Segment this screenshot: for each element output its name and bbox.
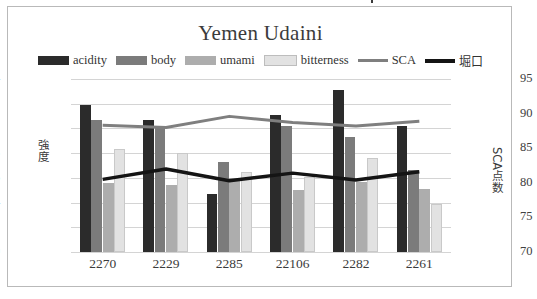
legend-swatch (116, 56, 147, 65)
legend-label: body (151, 53, 176, 68)
legend-swatch (185, 56, 216, 65)
y-tick-right: 75 (520, 209, 537, 224)
legend-line-marker (425, 59, 455, 63)
legend-swatch (264, 55, 297, 66)
y-tick-right: 85 (520, 140, 537, 155)
legend-label: 堀口 (459, 52, 483, 69)
chart-legend: aciditybodyumamibitternessSCA堀口 (8, 52, 513, 69)
line-series-layer (71, 79, 451, 252)
y-tick-right: 80 (520, 175, 537, 190)
stray-mark (371, 0, 373, 3)
x-tick-label: 2270 (80, 256, 126, 272)
legend-label: SCA (392, 53, 416, 68)
line-sca[interactable] (103, 116, 420, 127)
legend-label: bitterness (301, 53, 349, 68)
x-tick-label: 22106 (270, 256, 316, 272)
y-axis-right-label: SCA点数 (489, 147, 505, 194)
legend-item-horiguchi[interactable]: 堀口 (425, 52, 483, 69)
legend-item-body[interactable]: body (116, 53, 176, 68)
y-axis-left-label: 強度 (35, 139, 51, 163)
x-tick-label: 2229 (143, 256, 189, 272)
legend-item-bitterness[interactable]: bitterness (264, 53, 349, 68)
legend-item-acidity[interactable]: acidity (38, 53, 107, 68)
legend-label: umami (220, 53, 255, 68)
x-tick-label: 2285 (207, 256, 253, 272)
chart-title: Yemen Udaini (8, 21, 513, 46)
y-tick-right: 90 (520, 106, 537, 121)
plot-area: 1.41.210.80.60.40.2095908580757022702229… (71, 79, 451, 252)
legend-swatch (38, 56, 69, 65)
y-tick-right: 70 (520, 244, 537, 259)
legend-label: acidity (73, 53, 107, 68)
x-tick-label: 2282 (333, 256, 379, 272)
x-tick-label: 2261 (397, 256, 443, 272)
legend-item-umami[interactable]: umami (185, 53, 255, 68)
y-tick-right: 95 (520, 71, 537, 86)
gridline (71, 252, 451, 253)
line-horiguchi[interactable] (103, 169, 420, 181)
chart-frame: Yemen Udaini aciditybodyumamibitternessS… (7, 6, 512, 287)
legend-item-sca[interactable]: SCA (358, 53, 416, 68)
legend-line-marker (358, 59, 388, 62)
